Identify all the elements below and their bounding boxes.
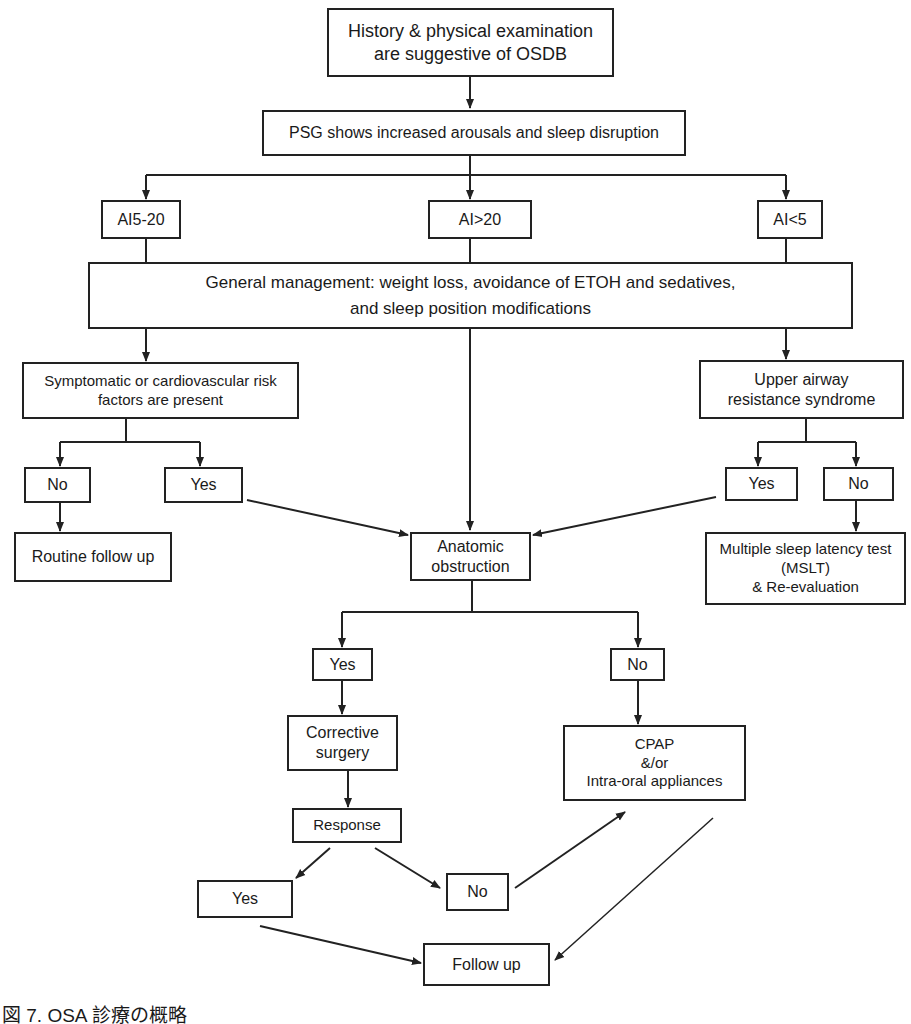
symptomatic-no-box: No: [24, 467, 91, 503]
general-management-box: General management: weight loss, avoidan…: [88, 262, 853, 329]
corrective-surgery-label: Corrective surgery: [306, 723, 379, 763]
response-yes-box: Yes: [197, 880, 293, 918]
symptomatic-box: Symptomatic or cardiovascular risk facto…: [22, 362, 299, 419]
uars-yes-label: Yes: [748, 474, 774, 494]
routine-follow-up-box: Routine follow up: [14, 532, 172, 582]
ai-gt-20-label: AI>20: [459, 210, 501, 230]
uars-label: Upper airway resistance syndrome: [728, 370, 876, 410]
history-exam-label: History & physical examination are sugge…: [348, 20, 593, 65]
psg-box: PSG shows increased arousals and sleep d…: [262, 110, 686, 156]
figure-caption: 図 7. OSA 診療の概略: [2, 1000, 187, 1024]
ai-5-20-box: AI5-20: [101, 200, 181, 239]
follow-up-label: Follow up: [452, 955, 520, 975]
symptomatic-yes-box: Yes: [164, 467, 243, 503]
uars-box: Upper airway resistance syndrome: [699, 360, 904, 419]
cpap-box: CPAP &/or Intra-oral appliances: [563, 725, 746, 801]
response-no-box: No: [446, 873, 509, 911]
ai-gt-20-box: AI>20: [428, 200, 532, 239]
uars-no-box: No: [823, 467, 894, 501]
routine-follow-up-label: Routine follow up: [32, 547, 155, 567]
psg-label: PSG shows increased arousals and sleep d…: [289, 123, 659, 143]
mslt-label: Multiple sleep latency test (MSLT) & Re-…: [720, 540, 892, 596]
response-box: Response: [292, 808, 402, 843]
anatomic-no-label: No: [627, 655, 647, 675]
mslt-box: Multiple sleep latency test (MSLT) & Re-…: [705, 532, 906, 605]
symptomatic-yes-label: Yes: [190, 475, 216, 495]
symptomatic-label: Symptomatic or cardiovascular risk facto…: [44, 372, 277, 410]
anatomic-obstruction-box: Anatomic obstruction: [410, 532, 531, 581]
history-exam-box: History & physical examination are sugge…: [327, 8, 614, 77]
anatomic-obstruction-label: Anatomic obstruction: [431, 537, 509, 577]
follow-up-box: Follow up: [423, 943, 550, 986]
cpap-label: CPAP &/or Intra-oral appliances: [587, 735, 723, 791]
ai-5-20-label: AI5-20: [117, 210, 164, 230]
ai-lt-5-label: AI<5: [773, 210, 806, 230]
uars-yes-box: Yes: [725, 467, 798, 501]
anatomic-yes-box: Yes: [312, 648, 373, 681]
symptomatic-no-label: No: [47, 475, 67, 495]
corrective-surgery-box: Corrective surgery: [287, 715, 398, 771]
ai-lt-5-box: AI<5: [757, 200, 823, 239]
anatomic-no-box: No: [610, 648, 665, 681]
anatomic-yes-label: Yes: [329, 655, 355, 675]
response-no-label: No: [467, 882, 487, 902]
response-yes-label: Yes: [232, 889, 258, 909]
response-label: Response: [313, 816, 381, 835]
uars-no-label: No: [848, 474, 868, 494]
general-management-label: General management: weight loss, avoidan…: [206, 270, 736, 321]
